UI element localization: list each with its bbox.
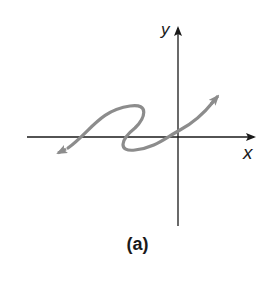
curve-arrow-left [58,149,66,153]
x-axis-label: x [243,142,253,164]
figure-caption: (a) [0,234,275,255]
relation-curve [68,102,213,150]
y-axis-label: y [161,20,170,40]
curve-arrow-right [211,96,218,104]
